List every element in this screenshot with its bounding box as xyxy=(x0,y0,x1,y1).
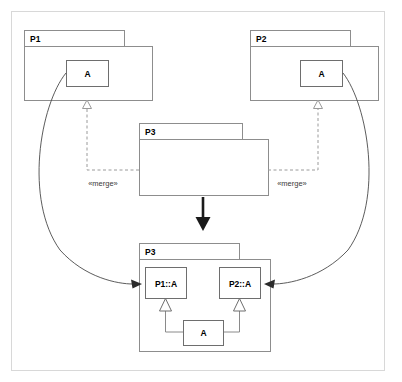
uml-package-merge-diagram: P1 A P2 A P3 «merge» «merge» xyxy=(0,0,402,382)
class-label-merged-p1a: P1::A xyxy=(155,279,177,289)
package-p3-after: P3 P1::A P2::A A xyxy=(140,244,271,352)
class-label-merged-p2a: P2::A xyxy=(229,279,251,289)
class-label-p2-a: A xyxy=(318,69,324,79)
merge-label-p1: «merge» xyxy=(88,179,118,188)
class-label-merged-a: A xyxy=(200,328,206,338)
package-p2-label: P2 xyxy=(256,34,267,44)
package-p3-before-body xyxy=(140,140,269,196)
class-label-p1-a: A xyxy=(84,69,90,79)
package-p3-before-label: P3 xyxy=(145,127,156,137)
merge-label-p2: «merge» xyxy=(277,179,307,188)
package-p1-label: P1 xyxy=(30,34,41,44)
diagram-canvas: P1 A P2 A P3 «merge» «merge» xyxy=(0,0,402,382)
package-p3-after-label: P3 xyxy=(145,247,156,257)
